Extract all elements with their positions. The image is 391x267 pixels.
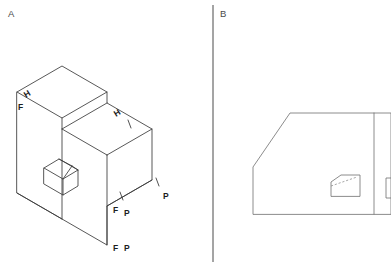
panel-b-orthographic-drawing [253, 113, 391, 214]
front-view-outline [253, 113, 391, 214]
boss-top-edges [44, 168, 78, 179]
mark-h-top-left: H [22, 88, 33, 100]
panel-a-isometric-drawing: H F H P F P F P [17, 66, 169, 253]
mark-p-mid-bottom: P [124, 208, 130, 218]
mark-f-low-bottom: F [113, 243, 118, 253]
chamfer-right-edge [107, 129, 152, 155]
body-outline [17, 66, 152, 245]
mark-h-upper-right: H [112, 107, 123, 119]
base-left-edge [17, 193, 62, 219]
boss-outline [44, 159, 78, 195]
boss-slope-diagonal [63, 166, 72, 179]
technical-drawing-figure: A B [0, 0, 391, 267]
pocket-outline [331, 175, 360, 196]
right-edge-fragment [386, 178, 391, 198]
right-base-top-edge [107, 180, 152, 206]
panel-a-letter: A [8, 8, 15, 19]
boss-feature [44, 159, 78, 195]
tick-right-lower [156, 178, 159, 186]
tick-mid-bottom [120, 192, 123, 200]
tick-upper-right [128, 120, 131, 128]
chamfer-top-edge [62, 103, 107, 129]
mark-f-mid-bottom: F [113, 205, 118, 215]
mark-p-low-bottom: P [124, 243, 130, 253]
panel-b-letter: B [220, 8, 227, 19]
mark-f-top-left: F [18, 102, 23, 112]
boss-slope-right-edge [72, 166, 78, 170]
pocket-hidden-line [331, 177, 357, 186]
chamfer-left-edge [62, 129, 107, 155]
boss-slope-top-edge [59, 159, 72, 166]
drawing-canvas: A B [0, 0, 391, 267]
mark-p-right: P [163, 191, 169, 201]
